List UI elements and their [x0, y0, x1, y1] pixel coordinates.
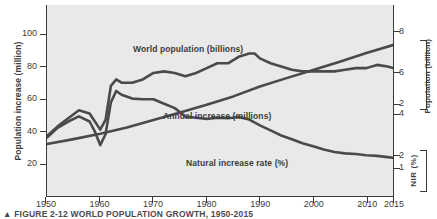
y-tick-label-left: 80: [11, 61, 37, 71]
figure-caption: ▲ FIGURE 2-12 WORLD POPULATION GROWTH, 1…: [3, 209, 435, 219]
y-tick-label-left: 60: [11, 93, 37, 103]
y-tick-label-right-population: 4: [399, 108, 419, 118]
x-tick-label: 1980: [187, 199, 227, 209]
y-tick-left: [40, 34, 46, 35]
x-tick-label: 1970: [133, 199, 173, 209]
series-label-world-population: World population (billions): [133, 44, 243, 54]
y-tick-label-right-nir: 1: [399, 162, 419, 172]
nir-axis-bracket: [420, 150, 427, 192]
caption-triangle-icon: ▲: [3, 209, 12, 219]
y-tick-label-right-population: 8: [399, 26, 419, 36]
caption-text: FIGURE 2-12 WORLD POPULATION GROWTH, 195…: [14, 209, 253, 219]
x-tick-label: 2015: [374, 199, 414, 209]
y-tick-label-left: 20: [11, 158, 37, 168]
series-line-annual-increase: [47, 54, 393, 137]
y-tick-left: [40, 99, 46, 100]
y-tick-left: [40, 164, 46, 165]
x-tick-label: 1960: [80, 199, 120, 209]
series-label-annual-increase: Annual increase (millions): [163, 111, 271, 121]
y-tick-label-right-population: 6: [399, 67, 419, 77]
figure-world-population-growth: Population increase (million) World popu…: [0, 0, 437, 219]
population-axis-bracket: [420, 40, 427, 110]
x-tick-label: 2000: [294, 199, 334, 209]
series-label-natural-increase-rate: Natural increase rate (%): [186, 158, 288, 168]
y-tick-left: [40, 66, 46, 67]
y-tick-label-right-population: 2: [399, 150, 419, 160]
y-tick-label-left: 100: [11, 28, 37, 38]
x-tick-label: 1950: [26, 199, 66, 209]
y-tick-label-right-nir: 2: [399, 98, 419, 108]
y-tick-label-left: 40: [11, 126, 37, 136]
plot-area: [46, 5, 394, 197]
y-tick-left: [40, 131, 46, 132]
x-tick-label: 1990: [240, 199, 280, 209]
